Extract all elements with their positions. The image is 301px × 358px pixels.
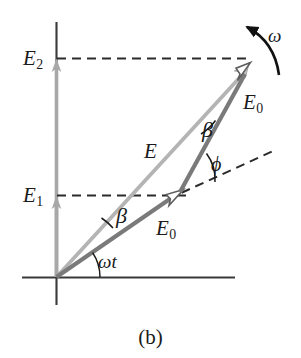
label-E0-upper: E0 xyxy=(243,92,263,116)
label-phi: ϕ xyxy=(211,154,221,174)
label-E0-upper-base: E xyxy=(243,90,256,114)
figure-caption: (b) xyxy=(0,325,301,350)
label-beta-lower: β xyxy=(116,205,127,227)
label-E1-base: E xyxy=(23,183,36,207)
label-E2: E2 xyxy=(23,48,43,72)
label-E0-lower-subscript: 0 xyxy=(169,227,176,242)
label-E-resultant: E xyxy=(144,141,157,162)
label-E0-upper-subscript: 0 xyxy=(256,101,263,116)
phasor-diagram-canvas xyxy=(0,0,301,358)
phasor-figure: E2 E1 E E0 E0 β β ϕ ω ωt (b) xyxy=(0,0,301,358)
axis-projection-arrows xyxy=(52,59,62,278)
label-E0-lower-base: E xyxy=(156,216,169,240)
label-omega-t: ωt xyxy=(98,252,117,271)
label-E0-lower: E0 xyxy=(156,218,176,242)
label-E1-subscript: 1 xyxy=(36,194,43,209)
label-E1: E1 xyxy=(23,185,43,209)
label-beta-upper: β xyxy=(202,119,213,141)
label-omega: ω xyxy=(268,26,281,45)
axes-group xyxy=(22,22,235,305)
label-E-base: E xyxy=(144,139,157,163)
label-E2-subscript: 2 xyxy=(36,57,43,72)
label-E2-base: E xyxy=(23,46,36,70)
label-omega-t-base: ωt xyxy=(98,251,117,272)
